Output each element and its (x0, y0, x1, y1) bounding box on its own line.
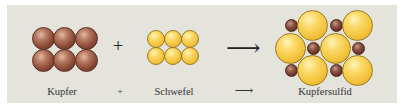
sulfur-atom (164, 30, 182, 48)
label-kupfer: Kupfer (47, 86, 77, 97)
copper-atom (75, 27, 98, 50)
label-plus: + (117, 86, 122, 96)
plus-sign: + (113, 36, 123, 57)
sulfur-atom (342, 10, 373, 41)
label-schwefel: Schwefel (154, 86, 193, 97)
sulfur-atom (181, 30, 199, 48)
copper-atom (32, 49, 55, 72)
sulfur-atom (147, 47, 165, 65)
label-arrow: ⟶ (235, 83, 254, 99)
sulfur-atom (181, 47, 199, 65)
sulfur-atom (147, 30, 165, 48)
copper-atom (53, 49, 76, 72)
sulfur-atom (297, 10, 328, 41)
copper-atom (32, 27, 55, 50)
sulfur-atom (297, 55, 328, 86)
copper-atom (53, 27, 76, 50)
sulfur-atom (164, 47, 182, 65)
sulfur-atom (342, 55, 373, 86)
reaction-arrow: ⟶ (226, 34, 260, 62)
copper-atom (352, 42, 365, 55)
copper-atom (75, 49, 98, 72)
label-kupfersulfid: Kupfersulfid (298, 86, 352, 97)
copper-atom (307, 42, 320, 55)
